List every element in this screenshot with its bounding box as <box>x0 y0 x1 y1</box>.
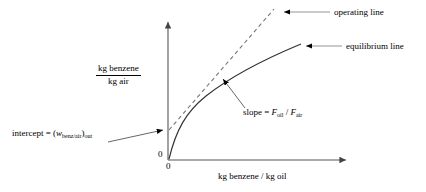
y-axis-label-numerator: kg benzene <box>96 64 141 76</box>
x-axis-label: kg benzene / kg oil <box>218 172 286 182</box>
equilibrium-line <box>169 44 301 159</box>
slope-f-air-subscript: air <box>296 112 302 118</box>
slope-prefix: slope = <box>243 107 272 117</box>
slope-leader <box>223 79 245 108</box>
y-axis-label: kg benzene kg air <box>96 64 141 87</box>
intercept-leader <box>108 130 163 142</box>
origin-label-x: 0 <box>166 162 171 172</box>
plot-area <box>0 0 426 192</box>
origin-label-y: 0 <box>158 150 163 160</box>
slope-annotation: slope = Foil / Fair <box>243 108 302 118</box>
intercept-inner-subscript: benz/air <box>62 133 81 139</box>
intercept-outer-subscript: out <box>84 133 92 139</box>
benzene-absorber-operating-equilibrium-diagram: kg benzene kg air kg benzene / kg oil op… <box>0 0 426 192</box>
intercept-annotation: intercept = (wbenz/air)out <box>12 129 92 139</box>
operating-line-label: operating line <box>334 8 384 18</box>
y-axis-label-denominator: kg air <box>96 76 141 87</box>
equilibrium-line-label: equilibrium line <box>346 42 404 52</box>
intercept-prefix: intercept = ( <box>12 128 56 138</box>
